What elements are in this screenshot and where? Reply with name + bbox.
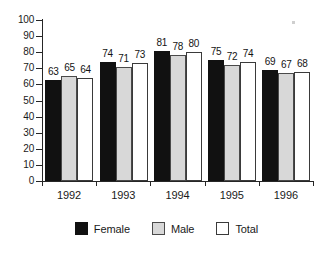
- bar-female-1996: [262, 70, 278, 181]
- bar-value-label: 80: [183, 39, 205, 49]
- y-axis-tick-label: 20: [4, 144, 34, 154]
- bar-total-1993: [132, 63, 148, 181]
- x-axis-tick-mark: [313, 181, 314, 186]
- bar-female-1993: [100, 62, 116, 181]
- y-axis-tick-label: 0: [4, 176, 34, 186]
- y-axis-tick-label: 70: [4, 63, 34, 73]
- bar-total-1996: [294, 72, 310, 181]
- legend-swatch-female-icon: [75, 222, 88, 235]
- legend-swatch-total-icon: [216, 222, 229, 235]
- bar-female-1992: [45, 80, 61, 181]
- y-axis-labels: 0102030405060708090100: [0, 0, 34, 256]
- bar-value-label: 64: [74, 65, 96, 75]
- bar-total-1995: [240, 62, 256, 181]
- x-axis-tick-mark: [96, 181, 97, 186]
- chart-legend: FemaleMaleTotal: [0, 222, 333, 235]
- bar-total-1992: [77, 78, 93, 181]
- x-axis-tick-mark: [42, 181, 43, 186]
- x-axis-category-label: 1994: [150, 189, 204, 201]
- bar-value-label: 68: [291, 59, 313, 69]
- y-axis-tick-label: 50: [4, 96, 34, 106]
- y-axis-tick-label: 30: [4, 128, 34, 138]
- x-axis-category-label: 1992: [42, 189, 96, 201]
- y-axis-tick-label: 100: [4, 15, 34, 25]
- x-axis-category-label: 1995: [205, 189, 259, 201]
- y-axis-tick-label: 80: [4, 47, 34, 57]
- bar-total-1994: [186, 52, 202, 181]
- bar-female-1995: [208, 60, 224, 181]
- bar-chart-figure: 0102030405060708090100 19921993199419951…: [0, 0, 333, 256]
- x-axis-tick-mark: [205, 181, 206, 186]
- y-axis-tick-label: 40: [4, 112, 34, 122]
- bar-value-label: 74: [237, 49, 259, 59]
- y-axis-tick-label: 60: [4, 79, 34, 89]
- y-axis-tick-label: 90: [4, 31, 34, 41]
- legend-swatch-male-icon: [152, 222, 165, 235]
- bar-male-1992: [61, 76, 77, 181]
- legend-label: Total: [235, 223, 258, 235]
- bar-male-1995: [224, 65, 240, 181]
- legend-label: Female: [94, 223, 130, 235]
- x-axis-tick-mark: [150, 181, 151, 186]
- bar-female-1994: [154, 51, 170, 181]
- bar-male-1994: [170, 55, 186, 181]
- bar-male-1993: [116, 67, 132, 181]
- bar-value-label: 73: [129, 50, 151, 60]
- legend-item-total[interactable]: Total: [216, 222, 258, 235]
- legend-item-male[interactable]: Male: [152, 222, 194, 235]
- y-axis-tick-label: 10: [4, 160, 34, 170]
- bar-male-1996: [278, 73, 294, 181]
- x-axis-tick-mark: [259, 181, 260, 186]
- x-axis-line: [42, 181, 314, 182]
- x-axis-category-label: 1996: [259, 189, 313, 201]
- scan-artifact-speck: [292, 21, 295, 24]
- legend-item-female[interactable]: Female: [75, 222, 130, 235]
- legend-label: Male: [171, 223, 194, 235]
- x-axis-category-label: 1993: [96, 189, 150, 201]
